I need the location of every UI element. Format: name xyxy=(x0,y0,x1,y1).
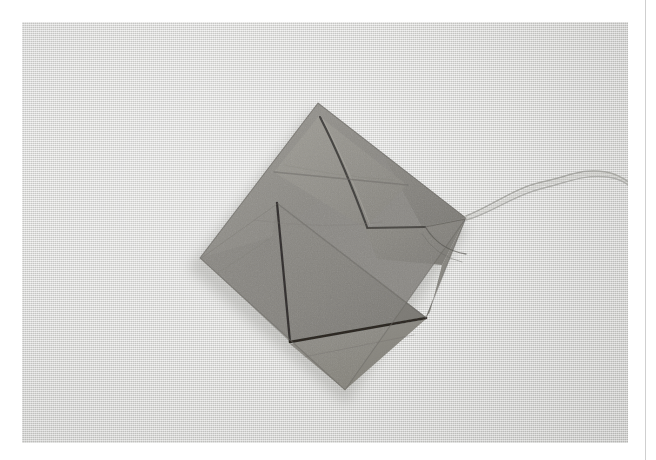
photo-grain xyxy=(22,22,628,443)
photo-scene xyxy=(22,22,628,443)
page-root: Folded paper tea bag with string on text… xyxy=(0,0,656,460)
page-margin-rule xyxy=(645,0,646,460)
photograph: Folded paper tea bag with string on text… xyxy=(22,22,628,443)
